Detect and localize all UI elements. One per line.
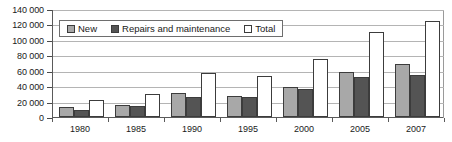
bar-repairs-1985 xyxy=(130,106,145,117)
x-axis-tick-mark xyxy=(164,118,165,122)
x-axis-tick-label: 2000 xyxy=(294,124,314,135)
x-axis-tick-mark xyxy=(444,118,445,122)
x-axis-tick-mark xyxy=(388,118,389,122)
x-axis-tick-label: 1985 xyxy=(126,124,146,135)
bar-total-1985 xyxy=(145,94,160,117)
bar-repairs-1980 xyxy=(74,110,89,117)
bar-total-2000 xyxy=(313,59,328,117)
legend-swatch-total xyxy=(244,25,252,33)
bar-repairs-1990 xyxy=(186,97,201,117)
bar-group xyxy=(339,10,384,117)
bar-total-1995 xyxy=(257,76,272,117)
chart-legend: NewRepairs and maintenanceTotal xyxy=(59,20,283,37)
bar-repairs-2000 xyxy=(298,89,313,117)
x-axis-tick-mark xyxy=(52,118,53,122)
y-axis: 020 00040 00060 00080 000100 000120 0001… xyxy=(0,0,52,142)
legend-label-new: New xyxy=(78,24,97,34)
x-axis-tick-mark xyxy=(332,118,333,122)
x-axis: 1980198519901995200020052007 xyxy=(52,118,444,142)
x-axis-tick-label: 1990 xyxy=(182,124,202,135)
bar-group xyxy=(395,10,440,117)
bar-group xyxy=(283,10,328,117)
bar-new-1995 xyxy=(227,96,242,117)
bar-total-2007 xyxy=(425,21,440,117)
bar-repairs-2005 xyxy=(354,77,369,117)
y-axis-tick-label: 20 000 xyxy=(17,98,44,107)
y-axis-tick-label: 140 000 xyxy=(12,6,44,15)
legend-swatch-new xyxy=(67,25,75,33)
bar-repairs-1995 xyxy=(242,97,257,117)
y-axis-tick-label: 60 000 xyxy=(17,67,44,76)
x-axis-tick-label: 1995 xyxy=(238,124,258,135)
bar-new-1985 xyxy=(115,105,130,117)
bar-new-2000 xyxy=(283,87,298,117)
x-axis-tick-mark xyxy=(276,118,277,122)
y-axis-tick-label: 40 000 xyxy=(17,83,44,92)
legend-entry-new[interactable]: New xyxy=(67,24,97,34)
x-axis-tick-label: 2005 xyxy=(350,124,370,135)
bar-total-1980 xyxy=(89,100,104,117)
bar-total-2005 xyxy=(369,32,384,117)
legend-swatch-repairs xyxy=(111,25,119,33)
legend-entry-total[interactable]: Total xyxy=(244,24,275,34)
bar-new-2005 xyxy=(339,72,354,117)
bar-new-1990 xyxy=(171,93,186,117)
legend-entry-repairs[interactable]: Repairs and maintenance xyxy=(111,24,230,34)
bar-new-2007 xyxy=(395,64,410,117)
y-axis-tick-label: 120 000 xyxy=(12,21,44,30)
bar-repairs-2007 xyxy=(410,75,425,117)
bar-new-1980 xyxy=(59,107,74,117)
legend-label-repairs: Repairs and maintenance xyxy=(122,24,230,34)
bar-total-1990 xyxy=(201,73,216,117)
x-axis-tick-label: 2007 xyxy=(406,124,426,135)
y-axis-tick-label: 0 xyxy=(39,114,44,123)
x-axis-tick-mark xyxy=(220,118,221,122)
legend-label-total: Total xyxy=(255,24,275,34)
y-axis-tick-label: 100 000 xyxy=(12,36,44,45)
bar-chart: 020 00040 00060 00080 000100 000120 0001… xyxy=(0,0,452,142)
x-axis-tick-mark xyxy=(108,118,109,122)
y-axis-tick-label: 80 000 xyxy=(17,52,44,61)
x-axis-tick-label: 1980 xyxy=(70,124,90,135)
